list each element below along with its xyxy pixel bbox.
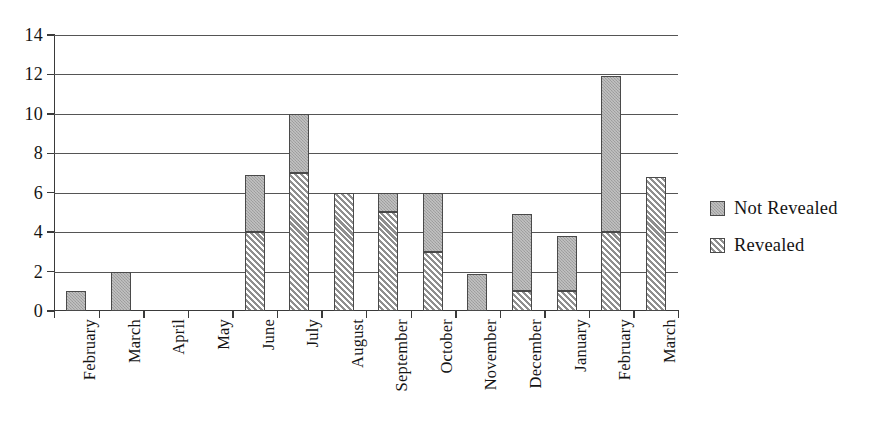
- x-axis-label: June: [261, 284, 278, 317]
- y-axis-tick: [47, 34, 54, 35]
- x-axis-label-text: March: [662, 317, 679, 363]
- x-axis-tick: [188, 311, 189, 318]
- x-axis-tick: [321, 311, 322, 318]
- gridline: [54, 193, 678, 194]
- gridline: [54, 114, 678, 115]
- y-axis-tick: [47, 310, 54, 311]
- x-axis-tick: [99, 311, 100, 318]
- x-axis-tick: [633, 311, 634, 318]
- gridline: [54, 153, 678, 154]
- legend-item-not-revealed: Not Revealed: [710, 193, 870, 223]
- bar-segment-not-revealed: [423, 193, 443, 252]
- x-axis-label-text: October: [439, 317, 456, 374]
- x-axis-label-text: April: [171, 317, 188, 355]
- y-axis-tick-label: 4: [34, 223, 43, 241]
- x-axis-label: September: [394, 243, 411, 317]
- y-axis-tick: [47, 113, 54, 114]
- y-axis-tick: [47, 192, 54, 193]
- x-axis-label-text: June: [261, 317, 278, 350]
- y-axis-tick: [47, 74, 54, 75]
- y-axis-tick-label: 8: [34, 144, 43, 162]
- x-axis-label: May: [216, 284, 233, 317]
- legend-label-not-revealed: Not Revealed: [734, 199, 838, 218]
- x-axis-label-text: February: [82, 317, 99, 380]
- y-axis-tick-label: 6: [34, 184, 43, 202]
- bar-segment-not-revealed: [601, 76, 621, 232]
- bar-group: [646, 35, 666, 311]
- y-axis-tick-label: 2: [34, 263, 43, 281]
- bar-segment-not-revealed: [245, 175, 265, 232]
- x-axis-label-text: July: [305, 317, 322, 347]
- x-axis-label: April: [171, 279, 188, 317]
- x-axis-label: December: [528, 246, 545, 317]
- x-axis-label-text: September: [394, 317, 411, 391]
- x-axis-label: July: [305, 287, 322, 317]
- x-axis-label: February: [617, 254, 634, 317]
- x-axis-label: October: [439, 260, 456, 317]
- x-axis-label-text: November: [483, 317, 500, 390]
- x-axis-tick: [54, 311, 55, 318]
- x-axis-label: March: [662, 271, 679, 317]
- y-axis-tick: [47, 231, 54, 232]
- x-axis-tick: [411, 311, 412, 318]
- gridline: [54, 74, 678, 75]
- y-axis-tick: [47, 153, 54, 154]
- bar-group: [289, 35, 309, 311]
- bar-segment-not-revealed: [378, 193, 398, 213]
- x-axis-label-text: May: [216, 317, 233, 350]
- legend-item-revealed: Revealed: [710, 230, 870, 260]
- x-axis-label: August: [350, 266, 367, 317]
- legend-swatch-revealed-icon: [710, 238, 725, 253]
- x-axis-label-text: March: [127, 317, 144, 363]
- bar-group: [245, 35, 265, 311]
- x-axis-label-text: February: [617, 317, 634, 380]
- bar-chart: 02468101214 FebruaryMarchAprilMayJuneJul…: [0, 0, 876, 431]
- x-axis-label-text: January: [573, 317, 590, 372]
- legend-swatch-not-revealed-icon: [710, 201, 725, 216]
- x-axis-label: November: [483, 244, 500, 317]
- gridline: [54, 232, 678, 233]
- x-axis-label: February: [82, 254, 99, 317]
- x-axis-tick: [500, 311, 501, 318]
- x-axis-label: January: [573, 262, 590, 317]
- y-axis-tick-label: 0: [34, 302, 43, 320]
- chart-legend: Not Revealed Revealed: [710, 193, 870, 267]
- x-axis-label-text: December: [528, 317, 545, 388]
- gridline: [54, 35, 678, 36]
- x-axis-label-text: August: [350, 317, 367, 368]
- x-axis-label: March: [127, 271, 144, 317]
- y-axis-tick-label: 12: [24, 65, 43, 83]
- y-axis-tick-label: 14: [24, 26, 43, 44]
- y-axis-tick-label: 10: [24, 105, 43, 123]
- bar-group: [111, 35, 131, 311]
- y-axis-tick: [47, 271, 54, 272]
- legend-label-revealed: Revealed: [734, 236, 804, 255]
- bar-segment-not-revealed: [289, 114, 309, 173]
